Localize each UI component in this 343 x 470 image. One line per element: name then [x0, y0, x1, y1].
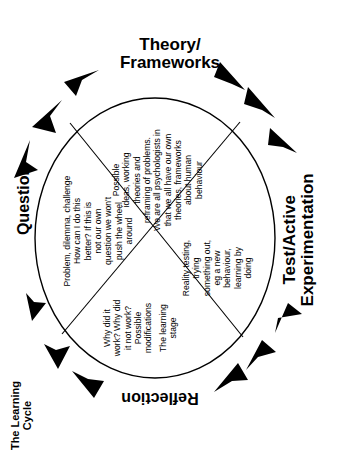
- theory-label-line1: Theory/: [95, 36, 245, 54]
- arrow-icon: [26, 293, 46, 321]
- text-line: We are all psychologists in: [152, 118, 162, 242]
- text-line: Possible: [133, 292, 143, 364]
- text-line: something out,: [202, 220, 212, 316]
- arrow-icon: [268, 128, 297, 153]
- text-line: it not work?: [123, 292, 133, 364]
- text-line: learning by: [233, 220, 243, 316]
- test-description: Reality testing, trying something out, e…: [181, 220, 253, 316]
- theory-label: Theory/ Frameworks: [95, 36, 245, 72]
- text-line: not our own: [93, 172, 103, 290]
- text-line: trying: [191, 220, 201, 316]
- text-line: around: [124, 172, 134, 290]
- arrow-icon: [44, 344, 70, 369]
- diagram-title: The Learning Cycle: [10, 380, 33, 452]
- arrow-icon: [244, 87, 275, 118]
- text-line: stage: [168, 292, 178, 364]
- arrow-icon: [72, 371, 104, 398]
- text-line: doing: [243, 220, 253, 316]
- text-line: eg a new: [212, 220, 222, 316]
- text-line: Why did it: [102, 292, 112, 364]
- text-line: question we won't: [103, 172, 113, 290]
- text-line: modifications: [143, 292, 153, 364]
- reflection-label-text: Reflection: [121, 390, 198, 407]
- text-line: Reality testing,: [181, 220, 191, 316]
- theory-label-line2: Frameworks: [95, 54, 245, 72]
- test-label-line1: Test/Active: [281, 165, 299, 315]
- text-line: better? If this is: [83, 172, 93, 290]
- text-line: How can I do this: [72, 172, 82, 290]
- title-line2: Cycle: [22, 380, 34, 452]
- arrow-group-top-right: [214, 62, 297, 153]
- question-description: Problem, dilemma, challenge How can I do…: [62, 172, 136, 290]
- reflection-label: Reflection: [110, 389, 210, 406]
- arrow-icon: [64, 70, 99, 96]
- arrow-group-bottom-left: [26, 293, 104, 398]
- text-line: that we all have our own: [163, 118, 173, 242]
- test-label: Test/Active Experimentation: [281, 165, 317, 315]
- arrow-group-bottom-right: [214, 303, 302, 392]
- test-label-line2: Experimentation: [299, 165, 317, 315]
- text-line: push the wheel: [114, 172, 124, 290]
- arrow-icon: [32, 100, 62, 133]
- question-label-text: Question: [15, 166, 32, 235]
- question-label: Question: [16, 160, 33, 240]
- title-line1: The Learning: [10, 380, 22, 452]
- text-line: Problem, dilemma, challenge: [62, 172, 72, 290]
- text-line: reframing of problems.: [142, 118, 152, 242]
- text-line: work? Why did: [112, 292, 122, 364]
- reflection-description: Why did it work? Why did it not work? Po…: [102, 292, 178, 364]
- arrow-icon: [246, 340, 276, 370]
- text-line: behaviour,: [222, 220, 232, 316]
- arrow-icon: [214, 363, 248, 392]
- text-line: The learning: [158, 292, 168, 364]
